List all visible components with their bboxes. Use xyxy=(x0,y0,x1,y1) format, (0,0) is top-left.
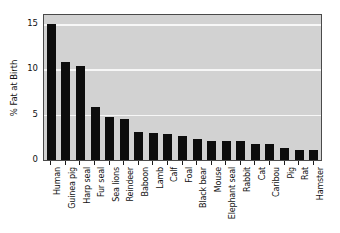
bar-chart-figure: % Fat at Birth 051015 HumanGuinea pigHar… xyxy=(0,0,340,233)
x-tick-mark xyxy=(196,161,197,165)
x-axis-category-labels: HumanGuinea pigHarp sealFur sealSea lion… xyxy=(43,167,322,233)
y-tick-label: 0 xyxy=(16,155,38,164)
x-category-label: Foal xyxy=(185,167,194,183)
bar[interactable] xyxy=(134,132,143,160)
bar[interactable] xyxy=(193,139,202,160)
x-tick-mark xyxy=(152,161,153,165)
x-tick-mark xyxy=(167,161,168,165)
x-category-label: Mouse xyxy=(214,167,223,192)
x-tick-mark xyxy=(240,161,241,165)
bar[interactable] xyxy=(178,136,187,160)
bar[interactable] xyxy=(207,141,216,160)
x-tick-mark xyxy=(313,161,314,165)
x-tick-mark xyxy=(269,161,270,165)
bar[interactable] xyxy=(91,107,100,160)
x-category-label: Human xyxy=(53,167,62,195)
y-tick-label: 15 xyxy=(16,19,38,28)
bar[interactable] xyxy=(236,141,245,160)
bar[interactable] xyxy=(61,62,70,160)
x-tick-mark xyxy=(284,161,285,165)
x-tick-mark xyxy=(123,161,124,165)
bar[interactable] xyxy=(295,150,304,160)
x-tick-mark xyxy=(138,161,139,165)
x-category-label: Harp seal xyxy=(83,167,92,204)
bar[interactable] xyxy=(105,117,114,161)
y-tick-label: 5 xyxy=(16,110,38,119)
x-tick-mark xyxy=(109,161,110,165)
bar[interactable] xyxy=(265,144,274,160)
x-tick-mark xyxy=(50,161,51,165)
x-category-label: Calf xyxy=(170,167,179,182)
bar[interactable] xyxy=(251,144,260,160)
x-category-label: Guinea pig xyxy=(68,167,77,209)
x-category-label: Reindeer xyxy=(126,167,135,201)
x-category-label: Lamb xyxy=(156,167,165,189)
plot-area xyxy=(43,14,322,161)
x-tick-mark xyxy=(182,161,183,165)
x-category-label: Rat xyxy=(301,167,310,180)
x-tick-mark xyxy=(254,161,255,165)
x-axis-tick-marks xyxy=(43,161,322,166)
x-category-label: Black bear xyxy=(199,167,208,208)
x-category-label: Cat xyxy=(258,167,267,180)
y-tick-label: 10 xyxy=(16,64,38,73)
x-category-label: Caribou xyxy=(272,167,281,197)
x-category-label: Fur seal xyxy=(97,167,106,197)
x-tick-mark xyxy=(211,161,212,165)
bar[interactable] xyxy=(309,150,318,160)
bar[interactable] xyxy=(222,141,231,160)
bar[interactable] xyxy=(76,66,85,160)
x-tick-mark xyxy=(298,161,299,165)
x-tick-mark xyxy=(225,161,226,165)
bar-series xyxy=(44,15,321,160)
bar[interactable] xyxy=(47,24,56,160)
bar[interactable] xyxy=(280,148,289,160)
x-category-label: Sea lions xyxy=(112,167,121,202)
x-tick-mark xyxy=(65,161,66,165)
x-category-label: Hamster xyxy=(316,167,325,200)
x-category-label: Baboon xyxy=(141,167,150,196)
x-tick-mark xyxy=(94,161,95,165)
x-category-label: Rabbit xyxy=(243,167,252,192)
bar[interactable] xyxy=(149,133,158,160)
x-tick-mark xyxy=(79,161,80,165)
x-category-label: Pig xyxy=(287,167,296,179)
x-category-label: Elephant seal xyxy=(228,167,237,219)
bar[interactable] xyxy=(163,134,172,160)
bar[interactable] xyxy=(120,119,129,160)
y-axis-tick-labels: 051015 xyxy=(14,0,38,233)
